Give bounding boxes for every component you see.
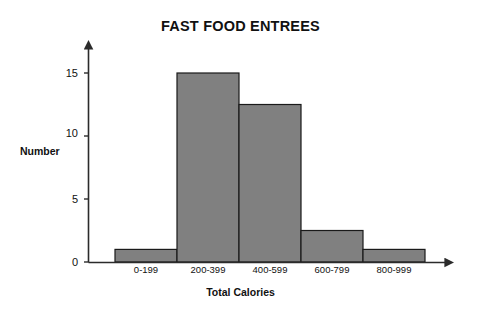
bar-400-599 <box>239 105 301 263</box>
plot-area <box>0 0 481 315</box>
bar-200-399 <box>177 73 239 262</box>
bars-group <box>115 73 425 262</box>
histogram-figure: FAST FOOD ENTREES Number Total Calories … <box>0 0 481 315</box>
bar-600-799 <box>301 231 363 263</box>
bar-0-199 <box>115 249 177 262</box>
bar-800-999 <box>363 249 425 262</box>
